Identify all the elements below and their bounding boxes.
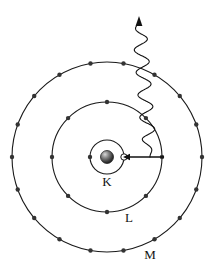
electron-dot (57, 237, 61, 241)
electron-dot (152, 73, 156, 77)
shell-label-k: K (102, 174, 112, 189)
electron-dot (178, 94, 182, 98)
electron-dot (105, 100, 109, 104)
electron-dot (57, 73, 61, 77)
electron-dot (50, 155, 54, 159)
electron-dot (121, 61, 125, 65)
electron-dot (16, 122, 20, 126)
electron-dot (88, 61, 92, 65)
electron-dot (10, 155, 14, 159)
shell-label-m: M (144, 247, 156, 262)
electron-transition-arrow (123, 154, 164, 160)
electron-dot (194, 187, 198, 191)
electron-dot (32, 94, 36, 98)
electron-dot (194, 122, 198, 126)
nucleus (101, 151, 114, 164)
electron-dot (121, 248, 125, 252)
electron-dot (66, 116, 70, 120)
photon-emission-wave (134, 16, 154, 157)
photon-wavy-line (134, 22, 154, 157)
electron-dot (32, 216, 36, 220)
electron-dot (16, 187, 20, 191)
electron-dot (152, 237, 156, 241)
nucleus-sphere (101, 151, 114, 164)
electron-dot (200, 155, 204, 159)
atom-diagram-canvas: K L M (0, 0, 213, 270)
photon-arrow-head (136, 16, 143, 26)
electron-dot (88, 248, 92, 252)
electron-dot (66, 194, 70, 198)
electron-dot (105, 210, 109, 214)
shell-label-l: L (125, 210, 133, 225)
electron-dot (178, 216, 182, 220)
electron-dot (144, 194, 148, 198)
electron-dot (88, 155, 92, 159)
electron-dot (144, 116, 148, 120)
bohr-atom-diagram: K L M (0, 0, 213, 270)
